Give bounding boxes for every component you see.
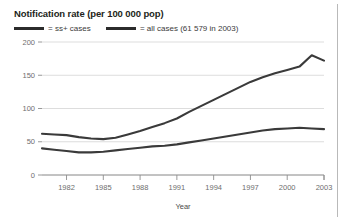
x-tick-label-2000: 2000 xyxy=(279,183,296,192)
x-tick-label-2003: 2003 xyxy=(316,183,333,192)
y-tick-label-150: 150 xyxy=(22,71,35,80)
x-axis-title: Year xyxy=(175,202,191,211)
x-tick-label-1991: 1991 xyxy=(169,183,186,192)
y-tick-label-100: 100 xyxy=(22,104,35,113)
y-tick-label-0: 0 xyxy=(31,171,35,180)
x-axis-group xyxy=(42,175,324,180)
gridlines-group xyxy=(38,42,324,175)
series-line-ss-cases xyxy=(42,128,324,153)
x-axis-tick-labels: 19821985198819911994199720002003 xyxy=(58,183,332,192)
y-tick-label-200: 200 xyxy=(22,38,35,47)
x-tick-label-1985: 1985 xyxy=(95,183,112,192)
series-line-all-cases-61-579-in-2003 xyxy=(42,55,324,139)
x-tick-label-1982: 1982 xyxy=(58,183,75,192)
data-series-group xyxy=(42,55,324,152)
chart-figure: Notification rate (per 100 000 pop) = ss… xyxy=(0,0,352,221)
y-axis-tick-labels: 050100150200 xyxy=(22,38,35,180)
y-tick-label-50: 50 xyxy=(27,137,35,146)
x-tick-label-1988: 1988 xyxy=(132,183,149,192)
x-tick-label-1997: 1997 xyxy=(242,183,259,192)
x-tick-label-1994: 1994 xyxy=(205,183,222,192)
chart-plot-area: 050100150200 198219851988199119941997200… xyxy=(0,0,352,221)
